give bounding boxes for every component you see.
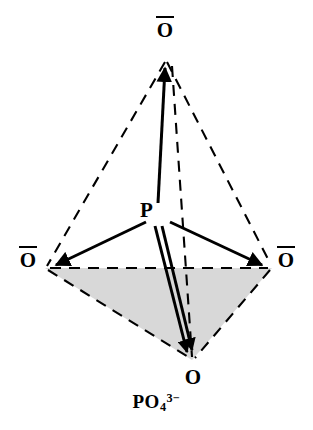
shaded-bottom-face bbox=[45, 268, 272, 360]
oxygen-left-symbol: O bbox=[20, 248, 36, 272]
oxygen-bottom-symbol: O bbox=[185, 365, 201, 389]
formula-superscript: 3− bbox=[166, 391, 180, 405]
bond-p-to-o-top bbox=[158, 68, 165, 203]
atom-label-oxygen-top: O bbox=[147, 20, 183, 41]
formula-caption: PO43− bbox=[0, 391, 313, 415]
oxygen-left-symbol-wrap: O bbox=[20, 250, 36, 271]
edge-top-left bbox=[47, 62, 165, 266]
oxygen-right-symbol: O bbox=[278, 248, 294, 272]
atom-label-oxygen-right: O bbox=[268, 250, 304, 271]
chemical-structure-figure: O O O O P PO43− bbox=[0, 0, 313, 430]
negative-charge-bar-icon bbox=[277, 246, 295, 248]
phosphorus-symbol: P bbox=[140, 198, 153, 222]
oxygen-right-symbol-wrap: O bbox=[278, 250, 294, 271]
atom-label-oxygen-left: O bbox=[10, 250, 46, 271]
oxygen-top-symbol: O bbox=[157, 18, 173, 42]
atom-label-oxygen-bottom: O bbox=[175, 367, 211, 388]
negative-charge-bar-icon bbox=[156, 16, 174, 18]
edge-top-right bbox=[167, 62, 271, 265]
negative-charge-bar-icon bbox=[19, 246, 37, 248]
atom-label-phosphorus: P bbox=[140, 200, 166, 221]
oxygen-top-symbol-wrap: O bbox=[157, 20, 173, 41]
formula-base: PO bbox=[133, 391, 160, 412]
